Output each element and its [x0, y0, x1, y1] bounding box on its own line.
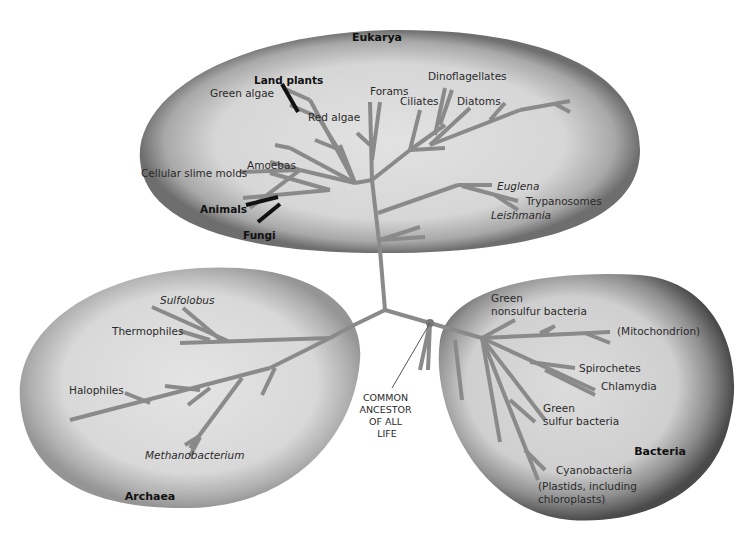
label-land-plants: Land plants: [254, 74, 323, 86]
label-leishmania: Leishmania: [491, 209, 551, 221]
domain-label-eukarya: Eukarya: [352, 31, 402, 44]
label-ciliates: Ciliates: [400, 95, 439, 107]
label-amoebas: Amoebas: [247, 159, 296, 171]
label-green-algae: Green algae: [210, 87, 274, 99]
eukarya-region: [140, 30, 640, 253]
label-methanobacterium: Methanobacterium: [145, 449, 244, 461]
label-trypanosomes: Trypanosomes: [525, 195, 602, 207]
label-sulfolobus: Sulfolobus: [160, 294, 215, 306]
label-red-algae: Red algae: [308, 111, 360, 123]
label-mitochondrion: (Mitochondrion): [617, 325, 700, 337]
label-cyanobacteria: Cyanobacteria: [556, 464, 632, 476]
label-spirochetes: Spirochetes: [579, 362, 641, 374]
tree-of-life-diagram: Eukarya Archaea Bacteria Land plants Gre…: [0, 0, 753, 540]
label-halophiles: Halophiles: [69, 384, 124, 396]
label-thermophiles: Thermophiles: [111, 325, 183, 337]
label-animals: Animals: [200, 203, 247, 215]
label-euglena: Euglena: [497, 180, 539, 192]
common-ancestor-label: COMMON ANCESTOR OF ALL LIFE: [359, 392, 414, 439]
label-fungi: Fungi: [243, 229, 276, 241]
domain-label-bacteria: Bacteria: [634, 445, 686, 458]
domain-label-archaea: Archaea: [125, 490, 176, 503]
label-diatoms: Diatoms: [457, 95, 501, 107]
label-cellular-slime-molds: Cellular slime molds: [141, 167, 247, 179]
label-chlamydia: Chlamydia: [601, 380, 657, 392]
label-dinoflagellates: Dinoflagellates: [428, 70, 507, 82]
